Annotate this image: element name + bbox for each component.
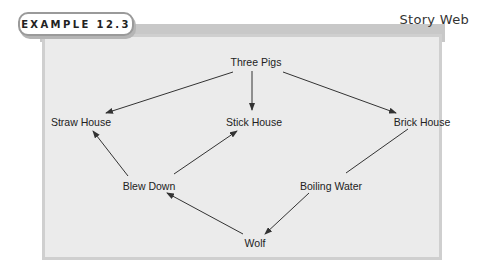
edge-blewdown-straw [93, 131, 128, 176]
node-stick-house: Stick House [226, 116, 282, 128]
edge-brick-boiling [346, 129, 408, 173]
example-tag: EXAMPLE 12.3 [18, 12, 134, 36]
node-boiling-water: Boiling Water [300, 180, 362, 192]
node-straw-house: Straw House [51, 116, 111, 128]
node-wolf: Wolf [245, 237, 266, 249]
edge-threepigs-straw [106, 72, 233, 113]
node-three-pigs: Three Pigs [231, 56, 282, 68]
edge-wolf-blewdown [167, 193, 243, 234]
node-blew-down: Blew Down [123, 180, 176, 192]
edge-threepigs-brick [283, 72, 396, 113]
node-brick-house: Brick House [394, 116, 451, 128]
edge-blewdown-stick [174, 131, 237, 174]
diagram-edges [0, 0, 485, 277]
example-tag-label: EXAMPLE 12.3 [21, 19, 131, 30]
edge-boiling-wolf [265, 193, 309, 234]
